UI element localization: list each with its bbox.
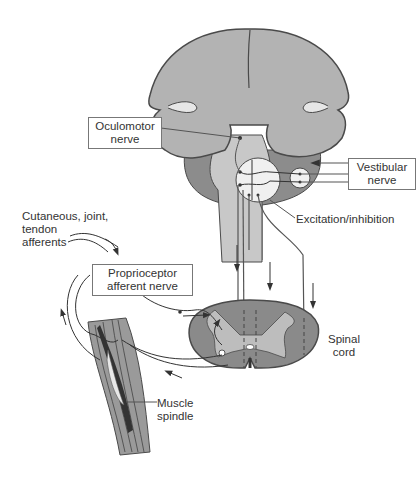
muscle-spindle-line-1: Muscle [157, 397, 193, 410]
spinal-cord-label: Spinal cord [328, 333, 360, 359]
cutaneous-line-1: Cutaneous, joint, [22, 210, 108, 223]
proprioceptor-line-2: afferent nerve [98, 280, 187, 293]
muscle-spindle-label: Muscle spindle [157, 397, 193, 423]
proprioceptor-nerve-label: Proprioceptor afferent nerve [92, 264, 193, 296]
proprioceptor-line-1: Proprioceptor [98, 267, 187, 280]
vestibular-ganglion [290, 168, 310, 188]
spinal-cord-line-2: cord [328, 346, 360, 359]
oculomotor-nerve-label: Oculomotor nerve [88, 117, 162, 149]
muscle [88, 318, 150, 455]
cutaneous-afferents-label: Cutaneous, joint, tendon afferents [22, 210, 108, 249]
excitation-inhibition-label: Excitation/inhibition [296, 213, 394, 226]
vestibular-line-1: Vestibular [354, 161, 410, 174]
spinal-cord-line-1: Spinal [328, 333, 360, 346]
vestibular-line-2: nerve [354, 174, 410, 187]
oculomotor-line-2: nerve [94, 133, 156, 146]
muscle-spindle-line-2: spindle [157, 410, 193, 423]
vestibular-nerve-label: Vestibular nerve [348, 158, 416, 190]
cutaneous-line-2: tendon [22, 223, 108, 236]
oculomotor-line-1: Oculomotor [94, 120, 156, 133]
cutaneous-line-3: afferents [22, 236, 108, 249]
